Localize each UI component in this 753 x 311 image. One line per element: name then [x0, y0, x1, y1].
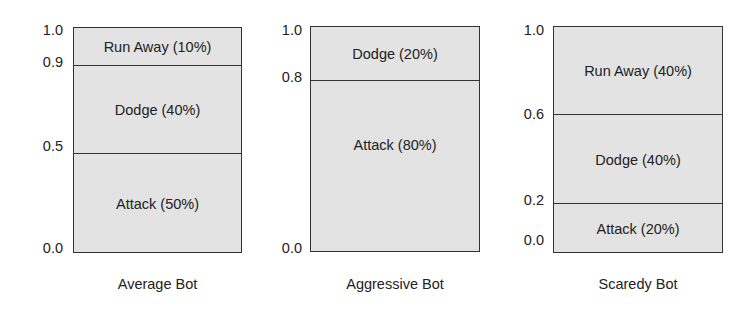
y-tick-0-5: 0.5: [27, 138, 63, 154]
y-tick-1-0: 1.0: [27, 22, 63, 38]
stacked-bar: Dodge (20%) Attack (80%): [310, 26, 480, 252]
chart-aggressive-bot: 1.0 0.8 0.0 Dodge (20%) Attack (80%) Agg…: [250, 0, 500, 311]
segment-run-away: Run Away (40%): [554, 27, 722, 114]
segment-label: Dodge (40%): [595, 152, 680, 168]
segment-attack: Attack (20%): [554, 203, 722, 253]
segment-run-away: Run Away (10%): [74, 28, 241, 65]
segment-attack: Attack (50%): [74, 153, 241, 253]
y-tick-0-0: 0.0: [27, 240, 63, 256]
chart-label: Scaredy Bot: [553, 276, 723, 292]
y-tick-0-0: 0.0: [266, 240, 302, 256]
segment-label: Run Away (40%): [584, 63, 692, 79]
y-tick-1-0: 1.0: [508, 22, 544, 38]
y-tick-0-0: 0.0: [508, 232, 544, 248]
segment-dodge: Dodge (40%): [554, 114, 722, 204]
segment-label: Run Away (10%): [104, 39, 212, 55]
segment-label: Attack (20%): [597, 221, 680, 237]
y-tick-0-8: 0.8: [266, 69, 302, 85]
chart-label: Average Bot: [73, 276, 242, 292]
segment-attack: Attack (80%): [311, 80, 479, 153]
chart-scaredy-bot: 1.0 0.6 0.2 0.0 Run Away (40%) Dodge (40…: [500, 0, 753, 311]
y-tick-1-0: 1.0: [266, 22, 302, 38]
segment-dodge: Dodge (20%): [311, 27, 479, 80]
stacked-bar: Run Away (40%) Dodge (40%) Attack (20%): [553, 26, 723, 253]
segment-dodge: Dodge (40%): [74, 65, 241, 154]
y-tick-0-6: 0.6: [508, 106, 544, 122]
segment-label: Attack (50%): [116, 196, 199, 212]
stacked-bar: Run Away (10%) Dodge (40%) Attack (50%): [73, 27, 242, 253]
chart-label: Aggressive Bot: [310, 276, 480, 292]
segment-label: Dodge (40%): [115, 102, 200, 118]
y-tick-0-2: 0.2: [508, 192, 544, 208]
chart-average-bot: 1.0 0.9 0.5 0.0 Run Away (10%) Dodge (40…: [0, 0, 250, 311]
y-tick-0-9: 0.9: [27, 54, 63, 70]
segment-label: Dodge (20%): [352, 46, 437, 62]
segment-label: Attack (80%): [354, 137, 437, 153]
